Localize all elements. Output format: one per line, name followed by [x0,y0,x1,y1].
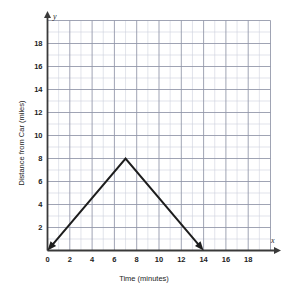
x-tick-label: 0 [45,255,49,264]
y-tick-label: 8 [38,154,42,163]
chart-background [0,0,288,293]
y-axis-title: Distance from Car (miles) [17,100,26,186]
y-tick-label: 18 [34,39,42,48]
x-tick-label: 16 [222,255,230,264]
y-tick-label: 6 [38,177,42,186]
x-tick-label: 12 [177,255,185,264]
x-axis-symbol-label: x [270,236,275,245]
y-tick-label: 12 [34,108,42,117]
chart-canvas: 024681012141618 24681012141618 x y Time … [0,0,288,293]
x-axis-title: Time (minutes) [119,274,169,283]
x-tick-label: 6 [112,255,116,264]
y-tick-label: 16 [34,62,42,71]
y-tick-label: 2 [38,223,42,232]
x-tick-label: 8 [135,255,139,264]
x-tick-label: 10 [155,255,163,264]
y-tick-label: 14 [34,85,43,94]
y-axis-symbol-label: y [52,12,57,21]
x-tick-label: 14 [199,255,208,264]
y-tick-label: 10 [34,131,42,140]
x-tick-label: 18 [244,255,252,264]
line-chart: 024681012141618 24681012141618 x y Time … [0,0,288,293]
x-tick-label: 2 [68,255,72,264]
